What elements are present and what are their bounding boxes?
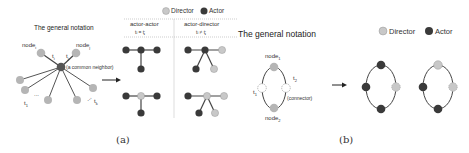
common-neighbor-label: (a common neighbor) <box>66 64 114 70</box>
cycle-graph-1 <box>362 61 401 114</box>
column-header-actor-actor: actor-actor <box>130 21 159 27</box>
t-2-b-label: t2 <box>293 75 297 83</box>
node-2-label: node2 <box>265 115 281 123</box>
node-i <box>37 49 46 58</box>
common-neighbor-node <box>57 63 66 72</box>
legend-b-actor-label: Actor <box>435 27 453 36</box>
caption-b: (b) <box>339 134 353 145</box>
legend-director-swatch <box>163 8 170 15</box>
condition-not-equal: tᵢ ≠ tⱼ <box>196 29 206 35</box>
node-i-sub: i <box>35 45 36 50</box>
legend-director-label: Director <box>171 7 194 14</box>
node-2-text: node <box>265 115 278 121</box>
node-2-sub: 2 <box>278 118 280 123</box>
legend-actor-swatch <box>201 8 208 15</box>
node-i-text: node <box>22 42 35 48</box>
arrow-b <box>332 83 347 88</box>
node-i-label: nodei <box>22 42 36 50</box>
t-1-label: t1 <box>24 100 28 108</box>
arrow-a <box>102 78 121 83</box>
ellipsis-left: ... <box>34 91 39 97</box>
connector-label: (connector) <box>287 95 312 101</box>
node-j-label: nodej <box>76 42 90 50</box>
t-i-label: ti <box>52 53 55 61</box>
caption-a: (a) <box>116 134 130 145</box>
legend-actor-label: Actor <box>209 7 224 14</box>
actor-actor-bottom <box>122 92 160 116</box>
panel-a-notation-title: The general notation <box>34 24 94 31</box>
node-1-sub: 1 <box>278 56 280 61</box>
condition-equal: tᵢ = tⱼ <box>135 29 145 35</box>
t-i-sub: i <box>54 56 55 61</box>
cycle-graph-2 <box>419 61 458 114</box>
t-j-sub: j <box>68 56 69 61</box>
panel-b-notation-title: The general notation <box>238 29 316 39</box>
node-1-label: node1 <box>265 53 281 61</box>
legend-b-director-swatch <box>379 27 387 35</box>
t-1-b-sub: 1 <box>255 92 257 97</box>
actor-director-top <box>184 46 225 72</box>
t-k-label: tk <box>94 98 98 106</box>
t-1-b-label: t1 <box>253 89 257 97</box>
actor-actor-top <box>122 46 160 72</box>
diagram-canvas <box>0 0 469 153</box>
t-2-b-sub: 2 <box>295 78 297 83</box>
node-j-text: node <box>76 42 89 48</box>
connector-graph <box>258 63 291 113</box>
t-j-label: tj <box>66 53 69 61</box>
node-1-text: node <box>265 53 278 59</box>
legend-b-actor-swatch <box>425 27 433 35</box>
t-k-sub: k <box>96 101 98 106</box>
actor-director-bottom <box>184 92 227 116</box>
legend-b-director-label: Director <box>389 27 415 36</box>
t-1-sub: 1 <box>26 103 28 108</box>
column-header-actor-director: actor-director <box>184 21 219 27</box>
node-j-sub: j <box>89 45 90 50</box>
